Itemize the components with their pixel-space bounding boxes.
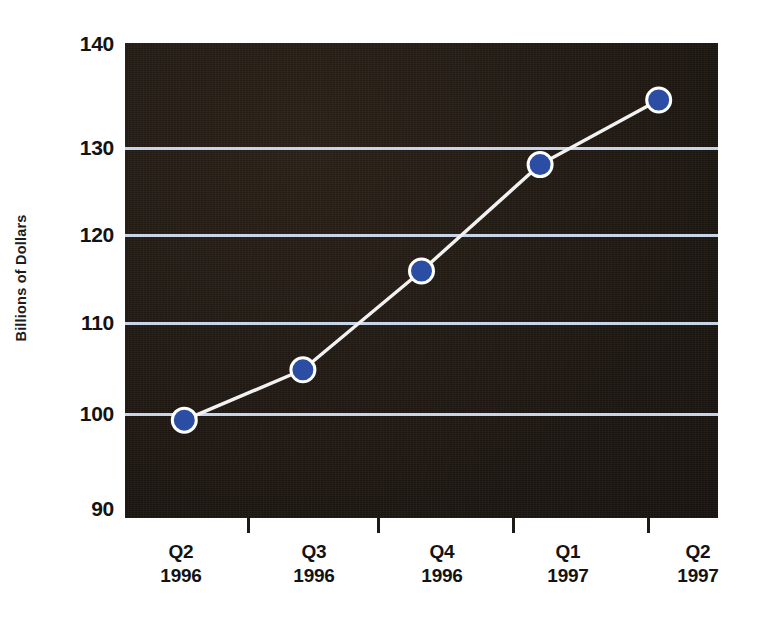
x-axis-tick-2 (377, 518, 380, 533)
x-axis-tick-1 (247, 518, 250, 533)
x-axis-label-q2-1997: Q2 1997 (638, 540, 758, 589)
chart-title-cropped (0, 0, 784, 10)
data-point-q2-1996 (172, 408, 196, 432)
x-axis-label-quarter: Q2 (638, 540, 758, 564)
x-axis-label-year: 1997 (638, 564, 758, 588)
data-point-q4-1996 (410, 259, 434, 283)
x-axis-label-q3-1996: Q3 1996 (254, 540, 374, 589)
y-tick-label-100: 100 (54, 403, 114, 424)
x-axis-label-q2-1996: Q2 1996 (121, 540, 241, 589)
y-tick-label-130: 130 (54, 137, 114, 158)
x-axis-label-year: 1996 (121, 564, 241, 588)
y-tick-label-110: 110 (54, 312, 114, 333)
x-axis-label-quarter: Q4 (382, 540, 502, 564)
y-tick-label-90: 90 (54, 498, 114, 519)
x-axis-tick-3 (512, 518, 515, 533)
data-point-q1-1997 (528, 153, 552, 177)
y-tick-label-140: 140 (54, 33, 114, 54)
x-axis-label-q1-1997: Q1 1997 (508, 540, 628, 589)
x-axis-tick-4 (647, 518, 650, 533)
x-axis-label-year: 1997 (508, 564, 628, 588)
x-axis-label-quarter: Q2 (121, 540, 241, 564)
line-chart: Billions of Dollars 140 130 120 110 100 … (0, 0, 784, 633)
x-axis-label-year: 1996 (382, 564, 502, 588)
y-axis-tick-labels: 140 130 120 110 100 90 (48, 0, 114, 633)
y-axis-title-label: Billions of Dollars (13, 214, 29, 341)
series-markers (172, 88, 670, 432)
data-point-q3-1996 (291, 358, 315, 382)
y-axis-title: Billions of Dollars (10, 178, 32, 378)
y-tick-label-120: 120 (54, 224, 114, 245)
plot-area (125, 43, 718, 518)
x-axis-label-quarter: Q1 (508, 540, 628, 564)
x-axis-label-year: 1996 (254, 564, 374, 588)
x-axis-label-q4-1996: Q4 1996 (382, 540, 502, 589)
series-plot-svg (125, 43, 718, 518)
data-point-q2-1997 (647, 88, 671, 112)
x-axis-label-quarter: Q3 (254, 540, 374, 564)
